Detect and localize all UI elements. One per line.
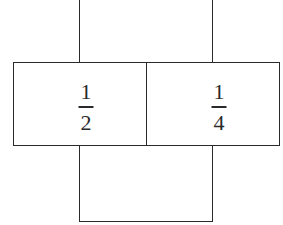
middle-divider-line (146, 62, 148, 146)
fraction-one-quarter: 1 4 (212, 81, 227, 134)
diagram-canvas: 1 2 1 4 (0, 0, 283, 225)
fraction-bar (79, 106, 94, 108)
fraction-denominator: 2 (81, 112, 92, 134)
fraction-numerator: 1 (81, 81, 92, 103)
fraction-numerator: 1 (214, 81, 225, 103)
top-empty-box (79, 0, 213, 63)
fraction-denominator: 4 (214, 112, 225, 134)
fraction-one-half: 1 2 (79, 81, 94, 134)
bottom-empty-box (79, 145, 213, 222)
fraction-bar (212, 106, 227, 108)
